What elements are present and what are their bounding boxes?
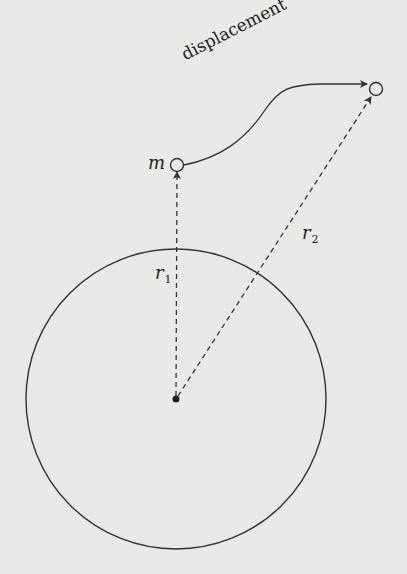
initial-position-marker xyxy=(171,159,184,172)
mass-label: m xyxy=(148,152,165,173)
gravity-displacement-diagram xyxy=(0,0,407,574)
final-position-marker xyxy=(370,83,383,96)
diagram-canvas: m displacement r1 r2 xyxy=(0,0,407,574)
r1-label: r1 xyxy=(155,262,172,283)
r2-vector xyxy=(178,97,371,396)
r2-label: r2 xyxy=(302,222,319,243)
displacement-path xyxy=(184,84,367,165)
r1-vector xyxy=(176,172,177,396)
center-point xyxy=(173,396,180,403)
